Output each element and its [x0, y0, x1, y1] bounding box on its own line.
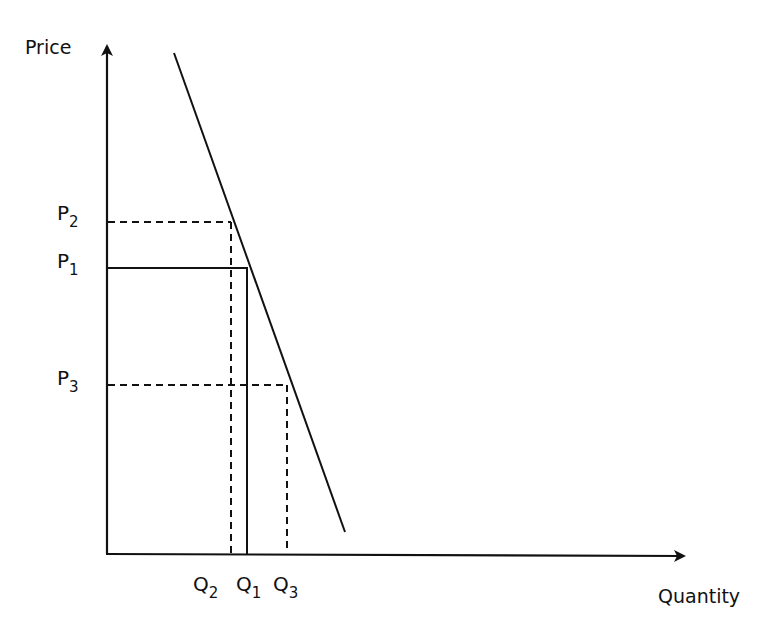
- x-axis-label: Quantity: [658, 585, 740, 607]
- demand-curve: [174, 53, 345, 532]
- p2-label: P2: [57, 201, 79, 231]
- q3-label: Q3: [273, 572, 298, 602]
- price-quantity-diagram: Price Quantity P2 P1 P3 Q2 Q1 Q3: [0, 0, 784, 631]
- p3-label: P3: [57, 366, 79, 396]
- p1-label: P1: [57, 249, 79, 279]
- x-axis: [106, 554, 684, 556]
- y-axis-label: Price: [25, 36, 71, 58]
- q2-label: Q2: [193, 572, 218, 602]
- q1-label: Q1: [236, 572, 261, 602]
